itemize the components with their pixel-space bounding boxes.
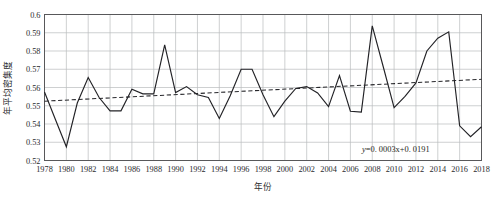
x-axis-tick-label: 1986 xyxy=(124,165,141,174)
y-axis-tick-label: 0.55 xyxy=(26,102,41,111)
x-axis-tick-label: 1992 xyxy=(189,165,206,174)
x-axis-tick-label: 2006 xyxy=(342,165,359,174)
x-axis-tick-label: 2016 xyxy=(451,165,468,174)
y-axis-title: 年平均密集度 xyxy=(2,61,13,115)
x-axis-title: 年份 xyxy=(254,181,272,192)
x-axis-tick-label: 2008 xyxy=(364,165,381,174)
x-axis-tick-label: 2004 xyxy=(320,165,337,174)
x-axis-tick-label: 2002 xyxy=(298,165,315,174)
y-axis-tick-label: 0.59 xyxy=(26,29,41,38)
x-axis-tick-label: 1982 xyxy=(80,165,97,174)
trend-equation-label: y=0. 0003x+0. 0191 xyxy=(361,145,430,154)
x-axis-tick-label: 1996 xyxy=(233,165,250,174)
y-axis-tick-label: 0.53 xyxy=(26,138,41,147)
x-axis-tick-label: 1980 xyxy=(58,165,75,174)
y-axis-tick-label: 0.58 xyxy=(26,47,41,56)
y-axis-tick-label: 0.6 xyxy=(30,11,40,20)
y-axis-tick-label: 0.57 xyxy=(26,65,41,74)
x-axis-tick-label: 2014 xyxy=(430,165,447,174)
x-axis-tick-label: 1984 xyxy=(102,165,119,174)
x-axis-tick-label: 2012 xyxy=(408,165,425,174)
x-axis-tick-label: 1978 xyxy=(36,165,53,174)
x-axis-tick-label: 1990 xyxy=(167,165,184,174)
annual-mean-concentration-chart: 0.520.530.540.550.560.570.580.590.619781… xyxy=(0,0,495,204)
x-axis-tick-label: 1994 xyxy=(211,165,228,174)
line-chart-container: 0.520.530.540.550.560.570.580.590.619781… xyxy=(0,0,495,204)
y-axis-tick-label: 0.54 xyxy=(26,120,41,129)
x-axis-tick-label: 1998 xyxy=(255,165,272,174)
equation-body: =0. 0003x+0. 0191 xyxy=(366,145,430,154)
y-axis-tick-label: 0.56 xyxy=(26,84,41,93)
x-axis-tick-label: 2010 xyxy=(386,165,403,174)
x-axis-tick-label: 2018 xyxy=(473,165,490,174)
x-axis-tick-label: 2000 xyxy=(277,165,294,174)
x-axis-tick-label: 1988 xyxy=(145,165,162,174)
